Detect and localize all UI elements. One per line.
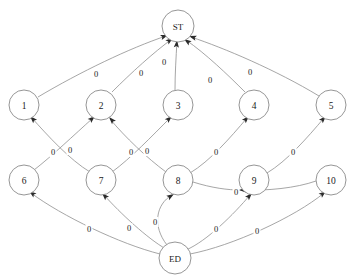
edge-n1-to-ST <box>38 33 169 97</box>
node-n3[interactable]: 3 <box>163 90 193 120</box>
edge-weight-label: 0 <box>94 69 98 79</box>
edge-weight-label: 0 <box>145 146 149 156</box>
edge-ED-to-n8 <box>158 192 176 245</box>
node-label: 6 <box>22 176 27 186</box>
node-label: 4 <box>252 101 257 111</box>
node-label: 9 <box>252 176 257 186</box>
node-label: 8 <box>176 176 181 186</box>
node-ED[interactable]: ED <box>159 242 191 274</box>
edge-n9-to-n5 <box>267 114 328 173</box>
edge-weight-label: 0 <box>234 187 238 197</box>
node-n10[interactable]: 10 <box>316 165 346 195</box>
edge-labels-layer: 00000000000000000 <box>50 57 297 236</box>
edge-path <box>190 193 324 254</box>
node-n9[interactable]: 9 <box>239 165 269 195</box>
node-label: 1 <box>22 101 27 111</box>
edge-n6-to-n2 <box>34 114 97 170</box>
edge-ED-to-n6 <box>27 189 160 254</box>
edge-path <box>110 119 166 172</box>
edge-n7-to-n1 <box>28 114 90 172</box>
node-label: 7 <box>99 176 104 186</box>
edge-weight-label: 0 <box>248 67 252 77</box>
node-n5[interactable]: 5 <box>316 90 346 120</box>
graph-diagram: ST12345678910ED 00000000000000000 <box>0 0 357 280</box>
node-ST[interactable]: ST <box>162 10 194 42</box>
edge-path <box>158 195 172 245</box>
edge-weight-label: 0 <box>129 147 133 157</box>
edge-n3-to-ST <box>174 40 180 90</box>
edge-weight-label: 0 <box>214 224 218 234</box>
node-label: 3 <box>176 101 181 111</box>
node-label: 2 <box>99 101 104 111</box>
edge-path <box>190 118 247 173</box>
edge-weight-label: 0 <box>87 224 91 234</box>
edges-layer <box>27 33 327 254</box>
edge-n8-to-n4 <box>190 114 251 173</box>
node-n2[interactable]: 2 <box>86 90 116 120</box>
edge-path <box>186 195 250 250</box>
node-label: ED <box>169 254 181 264</box>
edge-path <box>38 36 166 97</box>
edge-n8-to-n2 <box>107 115 166 172</box>
edge-weight-label: 0 <box>208 75 212 85</box>
edge-weight-label: 0 <box>162 57 166 67</box>
edge-path <box>31 193 160 254</box>
node-n7[interactable]: 7 <box>86 165 116 195</box>
edge-weight-label: 0 <box>153 217 157 227</box>
node-label: ST <box>173 22 184 32</box>
node-label: 10 <box>326 176 336 186</box>
edge-path <box>31 117 90 172</box>
edge-path <box>186 40 245 92</box>
edge-path <box>191 37 319 96</box>
edge-path <box>267 118 324 173</box>
edge-path <box>34 118 93 170</box>
node-n8[interactable]: 8 <box>163 165 193 195</box>
node-n1[interactable]: 1 <box>9 90 39 120</box>
edge-ED-to-n9 <box>186 191 254 250</box>
edge-weight-label: 0 <box>139 68 143 78</box>
edge-weight-label: 0 <box>127 223 131 233</box>
node-label: 5 <box>329 101 334 111</box>
edge-ED-to-n10 <box>190 189 328 254</box>
nodes-layer: ST12345678910ED <box>9 10 346 274</box>
node-n6[interactable]: 6 <box>9 165 39 195</box>
edge-weight-label: 0 <box>214 147 218 157</box>
edge-weight-label: 0 <box>255 226 259 236</box>
edge-weight-label: 0 <box>51 147 55 157</box>
edge-path <box>175 41 177 90</box>
node-n4[interactable]: 4 <box>239 90 269 120</box>
edge-weight-label: 0 <box>68 145 72 155</box>
edge-path <box>112 118 170 172</box>
edge-n7-to-n3 <box>112 114 174 172</box>
edge-n5-to-ST <box>188 34 319 96</box>
edge-weight-label: 0 <box>291 147 295 157</box>
